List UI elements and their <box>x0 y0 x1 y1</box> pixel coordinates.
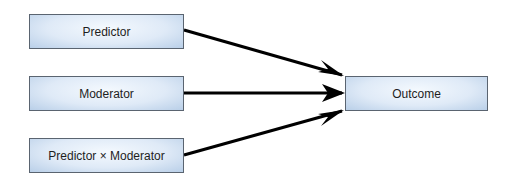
outcome-label: Outcome <box>392 87 441 101</box>
arrow-interaction-to-outcome <box>184 111 342 155</box>
moderator-node: Moderator <box>29 76 184 111</box>
outcome-node: Outcome <box>345 76 488 111</box>
interaction-node: Predictor × Moderator <box>29 138 184 173</box>
interaction-label: Predictor × Moderator <box>48 149 164 163</box>
arrow-predictor-to-outcome <box>184 30 342 75</box>
predictor-node: Predictor <box>29 14 184 49</box>
moderator-label: Moderator <box>79 87 134 101</box>
predictor-label: Predictor <box>82 25 130 39</box>
